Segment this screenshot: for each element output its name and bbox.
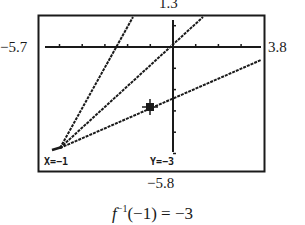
calculator-graph-screen: X=−1 Y=−3: [0, 0, 305, 225]
trace-x-readout: X=−1: [44, 156, 68, 167]
caption-superscript: −1: [117, 203, 128, 214]
caption: f−1(−1) = −3: [0, 199, 305, 224]
screen-frame: [39, 16, 265, 172]
trace-y-readout: Y=−3: [150, 156, 174, 167]
caption-rest: (−1) = −3: [127, 204, 193, 223]
